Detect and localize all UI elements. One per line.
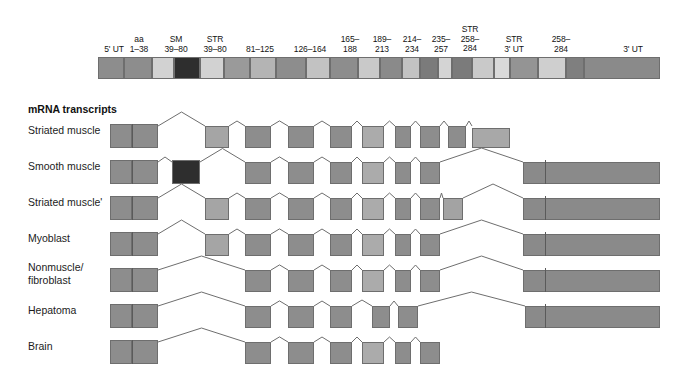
transcript-brain-exon-4 xyxy=(330,342,352,364)
intron-line xyxy=(411,337,420,342)
transcript-brain-introns xyxy=(0,0,677,374)
figure-canvas: 5' UTaa 1–38SM 39–80STR 39–8081–125126–1… xyxy=(0,0,677,374)
transcript-brain-exon-7 xyxy=(420,342,440,364)
transcript-brain-exon-0 xyxy=(110,340,132,364)
intron-line xyxy=(271,337,288,342)
transcript-brain-exon-5 xyxy=(362,342,384,364)
transcript-brain-exon-2 xyxy=(245,342,271,364)
transcript-brain-exon-3 xyxy=(288,342,314,364)
intron-line xyxy=(384,337,395,342)
intron-line xyxy=(314,337,330,342)
intron-line xyxy=(352,337,362,342)
transcript-brain-exon-6 xyxy=(395,342,411,364)
intron-line xyxy=(158,328,245,342)
transcript-brain-divider-0 xyxy=(132,340,133,364)
transcript-brain-exon-1 xyxy=(132,340,158,364)
